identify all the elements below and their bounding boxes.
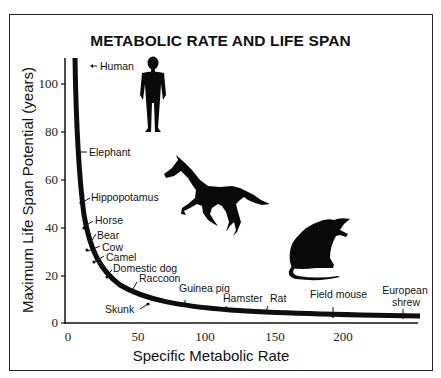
x-tick-label: 0	[65, 329, 72, 344]
y-tick-label: 80	[45, 124, 58, 139]
x-axis-title: Specific Metabolic Rate	[133, 347, 290, 364]
y-tick-label: 40	[45, 220, 58, 235]
x-tick-label: 150	[265, 329, 285, 344]
point-label-human: Human	[100, 60, 134, 72]
chart-plot: 100 80 60 40 20 0 0 50 100 150 200 Speci…	[0, 0, 441, 378]
human-silhouette-icon	[140, 57, 166, 133]
x-tick-label: 200	[333, 329, 353, 344]
point-label-european-shrew: European	[382, 284, 428, 296]
point-label-hamster: Hamster	[223, 292, 263, 304]
x-tick-label: 50	[132, 329, 145, 344]
point-label-raccoon: Raccoon	[139, 272, 181, 284]
point-label-hippopotamus: Hippopotamus	[91, 191, 159, 203]
y-axis-title: Maximum Life Span Potential (years)	[19, 67, 36, 313]
horse-silhouette-icon	[164, 155, 270, 236]
point-label-rat: Rat	[270, 292, 286, 304]
y-tick-label: 60	[45, 172, 58, 187]
rat-silhouette-icon	[289, 218, 350, 280]
y-tick-label: 20	[45, 268, 58, 283]
point-label-horse: Horse	[95, 214, 123, 226]
x-tick-label: 100	[195, 329, 215, 344]
lifespan-curve	[75, 58, 420, 316]
y-tick-label: 100	[39, 76, 59, 91]
human-arrow	[90, 64, 97, 68]
point-label-elephant: Elephant	[89, 146, 131, 158]
point-label-european-shrew-2: shrew	[392, 296, 420, 308]
point-label-bear: Bear	[97, 229, 120, 241]
point-label-field-mouse: Field mouse	[310, 288, 367, 300]
y-tick-label: 0	[52, 315, 59, 330]
point-label-skunk: Skunk	[105, 303, 135, 315]
